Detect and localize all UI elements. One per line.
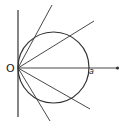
origin-label: O — [6, 62, 15, 75]
axis-end-dot — [116, 66, 119, 69]
ray-2 — [18, 21, 94, 68]
ray-1 — [18, 5, 52, 68]
ray-4 — [18, 68, 50, 121]
circle — [18, 32, 89, 103]
geometry-diagram: O a — [0, 0, 120, 130]
point-a-label: a — [89, 67, 94, 76]
